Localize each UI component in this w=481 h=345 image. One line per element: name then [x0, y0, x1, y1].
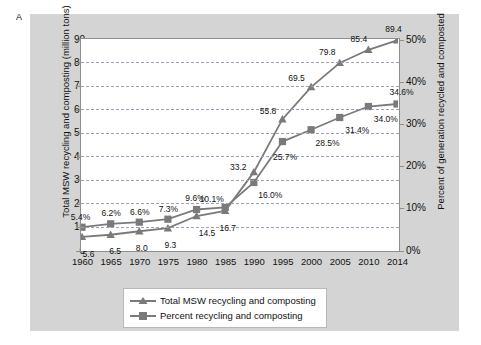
y-tick-mark-right	[400, 82, 404, 83]
y-tick-label-right: 10%	[406, 202, 436, 213]
y-tick-mark-right	[400, 251, 404, 252]
series-layer	[81, 39, 398, 250]
data-point-label: 14.5	[199, 228, 216, 238]
square-marker-icon	[164, 216, 171, 223]
data-point-label: 55.8	[260, 106, 277, 116]
y-tick-label-right: 20%	[406, 160, 436, 171]
gridline	[81, 62, 399, 63]
data-point-label: 31.4%	[345, 125, 369, 135]
y-tick-mark-right	[400, 166, 404, 167]
square-marker-icon	[193, 206, 200, 213]
x-tick-label: 2014	[378, 256, 418, 267]
y-tick-label-right: 50%	[406, 34, 436, 45]
gridline	[81, 109, 399, 110]
data-point-label: 16.7	[219, 223, 236, 233]
data-point-label: 6.6%	[130, 207, 149, 217]
data-point-label: 89.4	[385, 24, 402, 34]
data-point-label: 6.5	[109, 246, 121, 256]
square-marker-icon	[136, 219, 143, 226]
square-marker-icon	[393, 100, 398, 107]
data-point-label: 34.0%	[374, 114, 398, 124]
legend-item[interactable]: Total MSW recycling and composting	[130, 293, 316, 308]
data-point-label: 34.6%	[389, 87, 413, 97]
data-point-label: 25.7%	[273, 152, 297, 162]
data-point-label: 10.1%	[200, 194, 224, 204]
y-tick-label-right: 0%	[406, 245, 436, 256]
figure: A Total MSW recycling and composting (mi…	[0, 0, 481, 345]
data-point-label: 9.3	[164, 240, 176, 250]
legend-label: Percent recycling and composting	[160, 310, 303, 321]
panel-letter: A	[16, 12, 22, 22]
data-point-label: 5.4%	[71, 212, 90, 222]
triangle-marker-icon	[130, 295, 156, 307]
data-point-label: 8.0	[136, 243, 148, 253]
data-point-label: 5.6	[83, 249, 95, 259]
y-tick-mark-right	[400, 124, 404, 125]
chart-legend: Total MSW recycling and composting Perce…	[123, 288, 327, 328]
data-point-label: 33.2	[230, 162, 247, 172]
legend-label: Total MSW recycling and composting	[160, 295, 316, 306]
gridline	[81, 156, 399, 157]
gridline	[81, 227, 399, 228]
legend-item[interactable]: Percent recycling and composting	[130, 308, 316, 323]
y-axis-label-right: Percent of generation recycled and compo…	[435, 0, 446, 227]
square-marker-icon	[222, 204, 229, 211]
chart-panel: Total MSW recycling and composting (mill…	[30, 14, 459, 331]
data-point-label: 28.5%	[316, 138, 340, 148]
data-point-label: 16.0%	[258, 190, 282, 200]
y-tick-label-right: 40%	[406, 76, 436, 87]
y-tick-mark-right	[400, 40, 404, 41]
y-tick-mark-right	[400, 208, 404, 209]
gridline	[81, 180, 399, 181]
data-point-label: 6.2%	[101, 208, 120, 218]
square-marker-icon	[336, 114, 343, 121]
square-marker-icon	[279, 138, 286, 145]
square-marker-icon	[130, 310, 156, 322]
data-point-label: 7.3%	[159, 204, 178, 214]
data-point-label: 69.5	[288, 73, 305, 83]
y-tick-label-right: 30%	[406, 118, 436, 129]
data-point-label: 79.8	[319, 47, 336, 57]
gridline	[81, 203, 399, 204]
gridline	[81, 86, 399, 87]
data-point-label: 85.4	[351, 34, 368, 44]
plot-area	[80, 38, 400, 252]
triangle-marker-icon	[250, 168, 258, 175]
